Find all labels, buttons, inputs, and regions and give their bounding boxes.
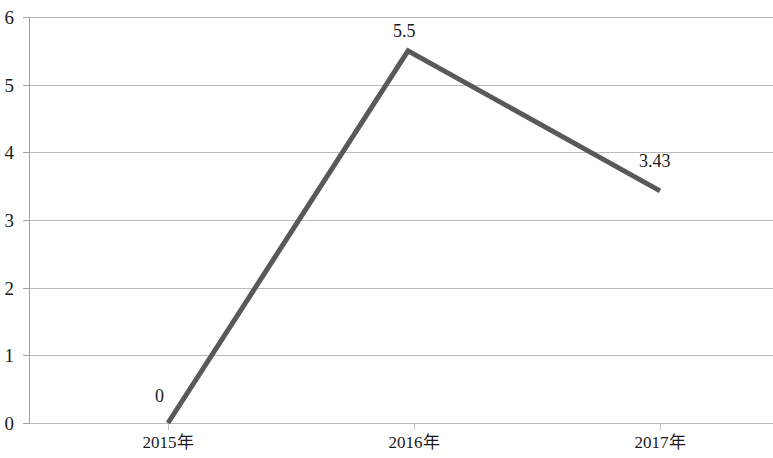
plot-area: 6 5 4 3 2 1 0 2015年 2016年 2017年 0 5.5 3.… — [0, 0, 773, 458]
y-axis-label-3: 3 — [0, 211, 14, 230]
y-axis-label-2: 2 — [0, 279, 14, 298]
data-label-2015: 0 — [155, 387, 164, 405]
data-label-2017: 3.43 — [639, 152, 671, 170]
series-line-layer — [0, 0, 773, 458]
x-axis-label-2017: 2017年 — [600, 433, 720, 453]
line-chart: 6 5 4 3 2 1 0 2015年 2016年 2017年 0 5.5 3.… — [0, 0, 773, 458]
y-axis-label-1: 1 — [0, 346, 14, 365]
y-axis-label-0: 0 — [0, 414, 14, 433]
x-axis-label-2016: 2016年 — [354, 433, 474, 453]
series-line — [168, 51, 660, 423]
y-axis-label-5: 5 — [0, 76, 14, 95]
y-axis-label-6: 6 — [0, 8, 14, 27]
x-axis-label-2015: 2015年 — [108, 433, 228, 453]
y-axis-label-4: 4 — [0, 143, 14, 162]
data-label-2016: 5.5 — [393, 22, 416, 40]
